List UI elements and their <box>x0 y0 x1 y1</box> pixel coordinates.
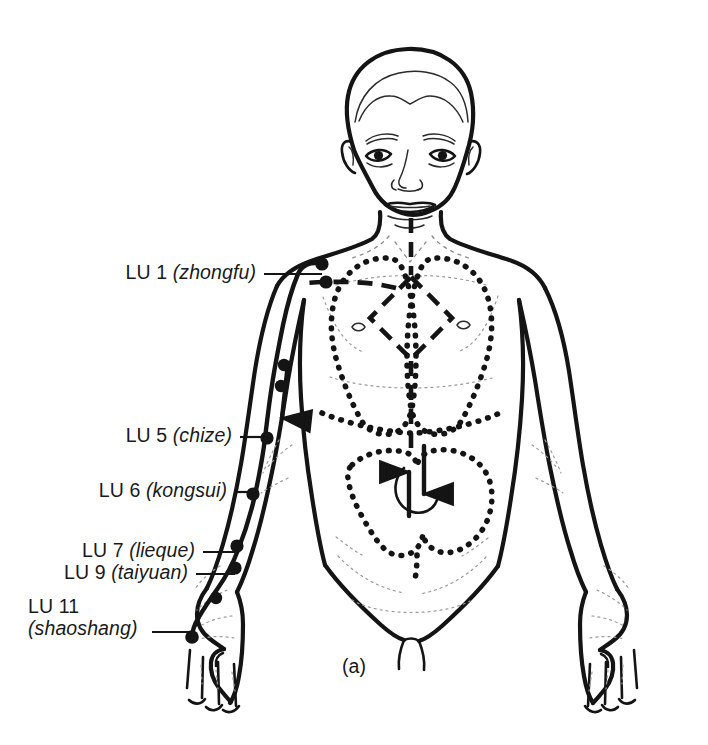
label-lu1-pinyin: (zhongfu) <box>173 261 256 283</box>
label-lu6-code: LU 6 <box>99 479 141 501</box>
label-lu5-pinyin: (chize) <box>173 424 232 446</box>
label-lu7-code: LU 7 <box>82 539 124 561</box>
label-lu9-pinyin: (taiyuan) <box>111 561 188 583</box>
label-lu7-pinyin: (lieque) <box>129 539 195 561</box>
right-arm-group <box>519 288 637 712</box>
acupoint-lu3 <box>278 359 290 371</box>
figure-caption: (a) <box>0 655 708 678</box>
label-lu1-code: LU 1 <box>126 261 168 283</box>
acupoint-lu6 <box>246 487 259 500</box>
label-lu1: LU 1 (zhongfu) <box>126 262 256 284</box>
acupoint-lu9 <box>228 561 241 574</box>
label-lu9: LU 9 (taiyuan) <box>64 562 188 584</box>
label-lu7: LU 7 (lieque) <box>82 540 195 562</box>
acupoint-lu10 <box>210 592 222 604</box>
label-lu9-code: LU 9 <box>64 561 106 583</box>
acupuncture-figure: .ol { fill:none; stroke:#141414; stroke-… <box>0 0 708 745</box>
label-lu6-pinyin: (kongsui) <box>146 479 227 501</box>
label-lu6: LU 6 (kongsui) <box>99 480 227 502</box>
acupoint-lu2 <box>315 257 328 270</box>
label-lu11: LU 11 (shaoshang) <box>28 596 138 640</box>
acupoint-lu4 <box>275 380 287 392</box>
head-group <box>342 49 480 228</box>
acupoint-lu7 <box>230 539 243 552</box>
label-lu11-pinyin: (shaoshang) <box>28 618 138 640</box>
label-lu5-code: LU 5 <box>126 424 168 446</box>
acupoint-lu1 <box>319 275 332 288</box>
label-lu11-code: LU 11 <box>28 596 138 618</box>
label-lu5: LU 5 (chize) <box>126 425 232 447</box>
